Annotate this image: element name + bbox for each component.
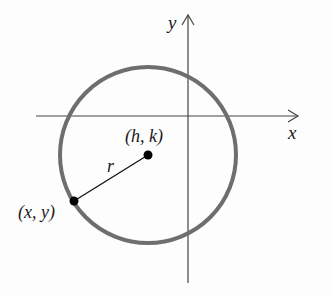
diagram-canvas: y x (h, k) r (x, y) — [0, 0, 332, 296]
center-point — [144, 151, 153, 160]
y-axis-label: y — [166, 12, 177, 33]
point-label: (x, y) — [18, 202, 55, 223]
x-axis-label: x — [287, 122, 297, 143]
center-label: (h, k) — [125, 126, 163, 147]
radius-label: r — [107, 156, 115, 176]
circle-diagram: y x (h, k) r (x, y) — [0, 0, 332, 296]
circle-point — [70, 197, 79, 206]
